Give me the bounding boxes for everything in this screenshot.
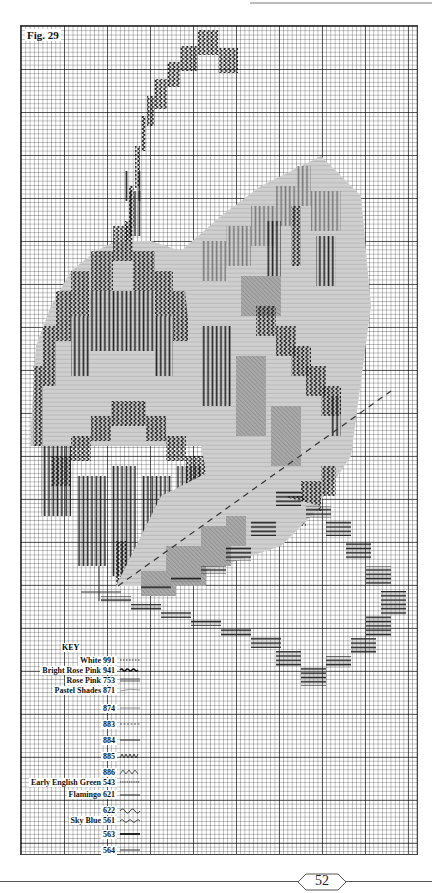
dashed-stitch-icon [119,720,141,728]
solid-line-stitch-icon [119,790,141,798]
key-item: Pastel Shades 871 [53,685,141,695]
key-item: Rose Pink 753 [65,675,141,685]
key-item: 563 [101,829,141,839]
beaded-stitch-icon [119,778,141,786]
page-footer: 52 [0,872,432,892]
key-item: Flamingo 621 [67,789,141,799]
footer-rule-left [0,881,300,882]
key-item: 874 [101,703,141,713]
wave-stitch-icon [119,806,141,814]
key-item: Bright Rose Pink 941 [40,665,141,675]
wavy-bold-stitch-icon [119,666,141,674]
dotted-stitch-icon [119,656,141,664]
key-item: 886 [101,767,141,777]
medium-line-stitch-icon [119,736,141,744]
stitch-motif [21,26,419,856]
key-item: Early English Green 543 [29,777,141,787]
top-page-rule [250,2,432,4]
zigzag-stitch-icon [119,752,141,760]
key-item: 622 [101,805,141,815]
bold-line-stitch-icon [119,830,141,838]
key-title: KEY [61,643,80,652]
key-item: 883 [101,719,141,729]
zigzag-open-stitch-icon [119,768,141,776]
line-stitch-icon [119,846,141,854]
thin-curve-stitch-icon [119,686,141,694]
double-line-stitch-icon [119,676,141,684]
needlepoint-chart-grid: Fig. 29 [20,25,418,855]
key-item: 885 [101,751,141,761]
key-item: 564 [101,845,141,855]
page-number: 52 [300,872,344,890]
key-item: 884 [101,735,141,745]
small-wave-stitch-icon [119,816,141,824]
footer-rule-right [346,881,432,882]
thin-line-stitch-icon [119,704,141,712]
key-item: White 991 [78,655,141,665]
key-item: Sky Blue 561 [69,815,141,825]
